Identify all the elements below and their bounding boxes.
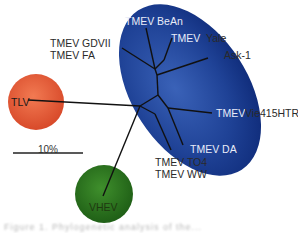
scale-bar-label: 10% bbox=[38, 144, 58, 155]
label-tmev-ww: TMEV WW bbox=[155, 168, 207, 180]
label-tmev-da: TMEV DA bbox=[190, 143, 237, 155]
label-yale: Yale bbox=[206, 32, 226, 44]
label-tmev-bean: TMEV BeAn bbox=[125, 15, 183, 27]
label-tmev-to4: TMEV TO4 bbox=[155, 156, 207, 168]
label-ask-1: Ask-1 bbox=[224, 49, 251, 61]
label-tlv: TLV bbox=[11, 96, 29, 108]
figure-caption: Figure 1. Phylogenetic analysis of the..… bbox=[4, 222, 202, 232]
label-tmev-gdvii: TMEV GDVII bbox=[50, 37, 111, 49]
label-vhev: VHEV bbox=[89, 201, 118, 213]
label-tmev-yale-prefix: TMEV bbox=[171, 32, 200, 44]
phylogenetic-diagram: TMEV BeAn TMEV Yale Ask-1 TMEV Vie415HTR… bbox=[0, 0, 298, 233]
label-tmev-vie-prefix: TMEV bbox=[216, 107, 245, 119]
label-vie415htr: Vie415HTR bbox=[245, 107, 298, 119]
label-tmev-fa: TMEV FA bbox=[50, 49, 95, 61]
